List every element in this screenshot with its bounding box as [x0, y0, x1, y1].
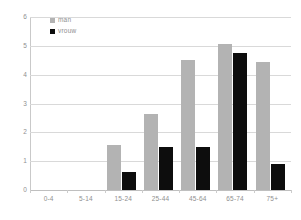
- x-axis-tickmark: [254, 190, 255, 193]
- y-axis-tick-label: 4: [3, 72, 27, 79]
- bar-group: [105, 17, 142, 190]
- bar-chart: 0123456 0-45-1415-2425-4445-6465-7475+ m…: [0, 0, 301, 220]
- gridline: [30, 190, 291, 191]
- bar-man-25-44: [144, 114, 158, 190]
- bars-layer: [30, 17, 291, 190]
- bar-man-15-24: [107, 145, 121, 190]
- x-axis-tickmark: [67, 190, 68, 193]
- x-axis-tick-labels: 0-45-1415-2425-4445-6465-7475+: [30, 196, 291, 210]
- x-axis-tickmark: [216, 190, 217, 193]
- bar-vrouw-75+: [271, 164, 285, 190]
- x-axis-tick-label: 45-64: [179, 196, 216, 203]
- x-axis-tickmark: [291, 190, 292, 193]
- x-axis-tickmark: [179, 190, 180, 193]
- legend-label: man: [58, 17, 71, 24]
- x-axis-tick-label: 75+: [254, 196, 291, 203]
- y-axis-tick-label: 5: [3, 43, 27, 50]
- bar-man-45-64: [181, 60, 195, 190]
- y-axis-tick-label: 3: [3, 101, 27, 108]
- y-axis-tick-label: 6: [3, 14, 27, 21]
- bar-vrouw-25-44: [159, 147, 173, 190]
- chart-legend: manvrouw: [50, 16, 76, 38]
- bar-group: [30, 17, 67, 190]
- bar-vrouw-45-64: [196, 147, 210, 190]
- x-axis-tickmark: [30, 190, 31, 193]
- bar-vrouw-15-24: [122, 172, 136, 190]
- bar-group: [67, 17, 104, 190]
- x-axis-tick-label: 0-4: [30, 196, 67, 203]
- bar-group: [142, 17, 179, 190]
- legend-swatch-icon: [50, 29, 55, 34]
- bar-man-65-74: [218, 44, 232, 190]
- x-axis-tick-label: 5-14: [67, 196, 104, 203]
- x-axis-tick-label: 15-24: [105, 196, 142, 203]
- y-axis-tick-label: 1: [3, 158, 27, 165]
- x-axis-tick-label: 65-74: [217, 196, 254, 203]
- bar-man-75+: [256, 62, 270, 190]
- bar-group: [179, 17, 216, 190]
- x-axis-tick-label: 25-44: [142, 196, 179, 203]
- y-axis-tick-label: 0: [3, 187, 27, 194]
- y-axis-tick-labels: 0123456: [0, 0, 27, 220]
- bar-group: [216, 17, 253, 190]
- x-axis-tickmark: [105, 190, 106, 193]
- y-axis-tick-label: 2: [3, 129, 27, 136]
- bar-vrouw-65-74: [233, 53, 247, 190]
- bar-group: [254, 17, 291, 190]
- legend-swatch-icon: [50, 18, 55, 23]
- legend-label: vrouw: [58, 28, 76, 35]
- x-axis-tickmark: [142, 190, 143, 193]
- legend-item-vrouw: vrouw: [50, 27, 76, 36]
- legend-item-man: man: [50, 16, 76, 25]
